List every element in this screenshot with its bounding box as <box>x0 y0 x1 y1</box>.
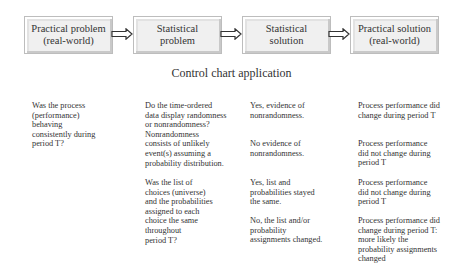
box-label: Practical solution (real-world) <box>358 23 431 47</box>
practical-answer-2b: Process performance did change during pe… <box>358 216 458 264</box>
statistical-answer-1b: No evidence of nonrandomness. <box>250 139 335 158</box>
statistical-question-2: Was the list of choices (universe) and t… <box>145 178 240 245</box>
statistical-answer-2a: Yes, list and probabilities stayed the s… <box>250 178 335 207</box>
statistical-answer-2b: No, the list and/or probability assignme… <box>250 216 335 245</box>
statistical-question-1: Do the time-ordered data display randomn… <box>145 101 240 168</box>
statistical-answer-1a: Yes, evidence of nonrandomness. <box>250 101 335 120</box>
practical-answer-1a: Process performance did change during pe… <box>358 101 458 120</box>
box-statistical-solution: Statistical solution <box>242 16 331 54</box>
box-label: Statistical solution <box>266 23 307 47</box>
practical-question: Was the process (performance) behaving c… <box>32 101 122 149</box>
box-practical-solution: Practical solution (real-world) <box>350 16 439 54</box>
box-label: Practical problem (real-world) <box>31 23 105 47</box>
box-practical-problem: Practical problem (real-world) <box>24 16 113 54</box>
box-statistical-problem: Statistical problem <box>133 16 222 54</box>
practical-answer-2a: Process performance did not change durin… <box>358 178 458 207</box>
right-arrow-icon <box>328 28 350 40</box>
section-title: Control chart application <box>0 66 463 81</box>
practical-answer-1b: Process performance did not change durin… <box>358 139 458 168</box>
box-label: Statistical problem <box>157 23 198 47</box>
right-arrow-icon <box>220 28 242 40</box>
right-arrow-icon <box>111 28 133 40</box>
